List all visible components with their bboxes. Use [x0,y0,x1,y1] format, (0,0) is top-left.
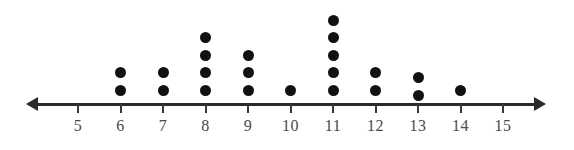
axis-tick-label-7: 7 [146,117,180,135]
data-dot [243,85,254,96]
data-dot [328,85,339,96]
axis-tick-label-11: 11 [316,117,350,135]
data-dot [370,85,381,96]
data-dot [115,85,126,96]
axis-tick-6 [120,104,122,113]
data-dot [158,85,169,96]
axis-arrow-right-icon [534,97,546,111]
dot-plot: 56789101112131415 [0,0,574,150]
data-dot [285,85,296,96]
axis-tick-label-10: 10 [274,117,308,135]
axis-tick-9 [247,104,249,113]
axis-tick-label-15: 15 [486,117,520,135]
axis-tick-14 [460,104,462,113]
data-dot [328,32,339,43]
number-line-axis [34,103,540,106]
data-dot [243,50,254,61]
axis-tick-10 [290,104,292,113]
axis-tick-label-8: 8 [189,117,223,135]
axis-tick-7 [162,104,164,113]
data-dot [200,32,211,43]
axis-tick-13 [417,104,419,113]
data-dot [370,67,381,78]
data-dot [328,50,339,61]
axis-tick-label-5: 5 [61,117,95,135]
axis-tick-label-12: 12 [359,117,393,135]
axis-tick-8 [205,104,207,113]
data-dot [455,85,466,96]
axis-tick-11 [332,104,334,113]
data-dot [413,72,424,83]
data-dot [200,67,211,78]
axis-tick-15 [502,104,504,113]
data-dot [158,67,169,78]
axis-tick-label-9: 9 [231,117,265,135]
data-dot [115,67,126,78]
axis-tick-label-13: 13 [401,117,435,135]
axis-tick-5 [77,104,79,113]
axis-arrow-left-icon [26,97,38,111]
axis-tick-12 [375,104,377,113]
data-dot [243,67,254,78]
data-dot [413,90,424,101]
data-dot [200,50,211,61]
data-dot [328,15,339,26]
axis-tick-label-6: 6 [104,117,138,135]
data-dot [200,85,211,96]
data-dot [328,67,339,78]
axis-tick-label-14: 14 [444,117,478,135]
